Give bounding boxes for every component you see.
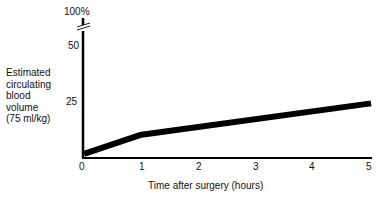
y-tick-100: 100% <box>64 6 90 17</box>
x-tick-5: 5 <box>366 161 372 172</box>
series-line <box>84 103 371 153</box>
x-tick-0: 0 <box>79 161 85 172</box>
x-tick-1: 1 <box>139 161 145 172</box>
x-tick-4: 4 <box>309 161 315 172</box>
y-tick-50: 50 <box>68 40 79 51</box>
x-tick-2: 2 <box>196 161 202 172</box>
y-axis-title: Estimated circulating blood volume (75 m… <box>6 67 51 125</box>
x-tick-3: 3 <box>253 161 259 172</box>
y-tick-25: 25 <box>66 96 77 107</box>
chart-canvas <box>0 0 376 202</box>
x-axis-title: Time after surgery (hours) <box>148 180 263 191</box>
